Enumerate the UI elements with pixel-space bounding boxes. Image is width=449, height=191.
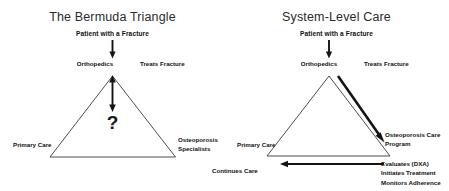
arrow-bidirectional-vertical xyxy=(109,75,116,112)
arrow-care-program-to-primary-care xyxy=(280,161,384,167)
arrow-patient-to-orthopedics xyxy=(326,40,332,59)
diagram-graphics-left xyxy=(0,0,225,191)
arrow-orthopedics-to-care-program xyxy=(338,76,385,143)
diagram-graphics-right xyxy=(224,0,449,191)
panel-bermuda-triangle: The Bermuda Triangle Patient with a Frac… xyxy=(0,0,225,191)
triangle-outline-right xyxy=(267,76,390,156)
panel-system-level-care: System-Level Care Patient with a Fractur… xyxy=(224,0,449,191)
arrow-patient-to-orthopedics xyxy=(109,40,115,59)
